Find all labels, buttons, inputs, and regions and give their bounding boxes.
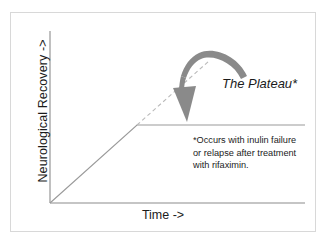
x-axis-label: Time -> [108, 208, 218, 222]
footnote-block: *Occurs with inulin failure or relapse a… [193, 134, 317, 172]
figure-container: Neurological Recovery -> Time -> The Pla… [0, 0, 330, 247]
footnote-line-3: with rifaximin. [193, 159, 317, 172]
footnote-line-1: *Occurs with inulin failure [193, 134, 317, 147]
plateau-callout-label: The Plateau* [222, 76, 297, 91]
projected-trajectory-line [137, 61, 209, 125]
footnote-line-2: or relapse after treatment [193, 147, 317, 160]
y-axis-label: Neurological Recovery -> [36, 16, 50, 206]
